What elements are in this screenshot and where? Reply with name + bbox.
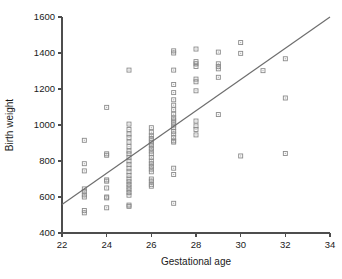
- data-point-center: [285, 153, 286, 154]
- y-axis-ticks: 4006008001000120014001600: [34, 11, 62, 238]
- plot-canvas: 4006008001000120014001600 22242628303234…: [0, 0, 342, 279]
- data-point-center: [240, 42, 241, 43]
- data-point-center: [106, 107, 107, 108]
- data-point-center: [128, 124, 129, 125]
- x-axis-ticks: 22242628303234: [57, 233, 336, 250]
- data-point-layer: [82, 41, 287, 215]
- y-tick-label: 800: [39, 155, 55, 166]
- axis-layer: 4006008001000120014001600 22242628303234: [34, 11, 335, 250]
- scatter-plot-figure: 4006008001000120014001600 22242628303234…: [0, 0, 342, 279]
- data-point-center: [173, 84, 174, 85]
- data-point-center: [240, 53, 241, 54]
- data-point-center: [106, 207, 107, 208]
- data-point-center: [173, 174, 174, 175]
- y-tick-label: 1000: [34, 119, 55, 130]
- data-point-center: [195, 129, 196, 130]
- data-point-center: [151, 153, 152, 154]
- data-point-center: [195, 81, 196, 82]
- data-point-center: [195, 90, 196, 91]
- data-point-center: [106, 197, 107, 198]
- data-point-center: [128, 146, 129, 147]
- data-point-center: [195, 125, 196, 126]
- data-point-center: [128, 153, 129, 154]
- data-point-center: [173, 168, 174, 169]
- data-point-center: [84, 140, 85, 141]
- data-point-center: [285, 97, 286, 98]
- data-point-center: [128, 195, 129, 196]
- data-point-center: [128, 70, 129, 71]
- x-tick-label: 22: [57, 239, 68, 250]
- data-point-center: [84, 196, 85, 197]
- data-point-center: [128, 160, 129, 161]
- data-point-center: [173, 92, 174, 93]
- data-point-center: [128, 206, 129, 207]
- data-point-center: [240, 155, 241, 156]
- data-point-center: [218, 52, 219, 53]
- regression-line: [62, 17, 330, 205]
- data-point-center: [106, 187, 107, 188]
- data-point-center: [151, 127, 152, 128]
- data-point-center: [151, 132, 152, 133]
- data-point-center: [128, 129, 129, 130]
- y-tick-label: 400: [39, 227, 55, 238]
- data-point-center: [128, 164, 129, 165]
- data-point-center: [195, 66, 196, 67]
- data-point-center: [262, 70, 263, 71]
- x-tick-label: 32: [280, 239, 291, 250]
- data-point-center: [173, 203, 174, 204]
- data-point-center: [151, 171, 152, 172]
- data-point-center: [218, 77, 219, 78]
- data-point-center: [106, 181, 107, 182]
- data-point-center: [151, 157, 152, 158]
- y-axis-title: Birth weight: [4, 99, 15, 151]
- data-point-center: [84, 191, 85, 192]
- data-point-center: [195, 120, 196, 121]
- data-point-center: [128, 142, 129, 143]
- y-tick-label: 600: [39, 191, 55, 202]
- data-point-center: [84, 170, 85, 171]
- y-tick-label: 1200: [34, 83, 55, 94]
- x-tick-label: 28: [191, 239, 202, 250]
- data-point-center: [173, 70, 174, 71]
- data-point-center: [128, 168, 129, 169]
- data-point-center: [106, 155, 107, 156]
- data-point-center: [173, 52, 174, 53]
- data-point-center: [128, 133, 129, 134]
- data-point-center: [128, 137, 129, 138]
- y-tick-label: 1600: [34, 11, 55, 22]
- x-tick-label: 24: [101, 239, 112, 250]
- data-point-center: [128, 175, 129, 176]
- x-tick-label: 34: [325, 239, 336, 250]
- data-point-center: [173, 137, 174, 138]
- data-point-center: [84, 163, 85, 164]
- data-point-center: [151, 181, 152, 182]
- data-point-center: [173, 99, 174, 100]
- data-point-center: [173, 109, 174, 110]
- data-point-center: [84, 212, 85, 213]
- y-tick-label: 1400: [34, 47, 55, 58]
- data-point-center: [151, 186, 152, 187]
- x-tick-label: 26: [146, 239, 157, 250]
- data-point-center: [173, 105, 174, 106]
- data-point-center: [195, 134, 196, 135]
- x-axis-title: Gestational age: [161, 256, 231, 267]
- data-point-center: [285, 58, 286, 59]
- x-tick-label: 30: [235, 239, 246, 250]
- data-point-center: [218, 68, 219, 69]
- data-point-center: [128, 171, 129, 172]
- data-point-center: [195, 48, 196, 49]
- data-point-center: [173, 142, 174, 143]
- data-point-center: [173, 114, 174, 115]
- data-point-center: [218, 114, 219, 115]
- data-point-center: [173, 133, 174, 134]
